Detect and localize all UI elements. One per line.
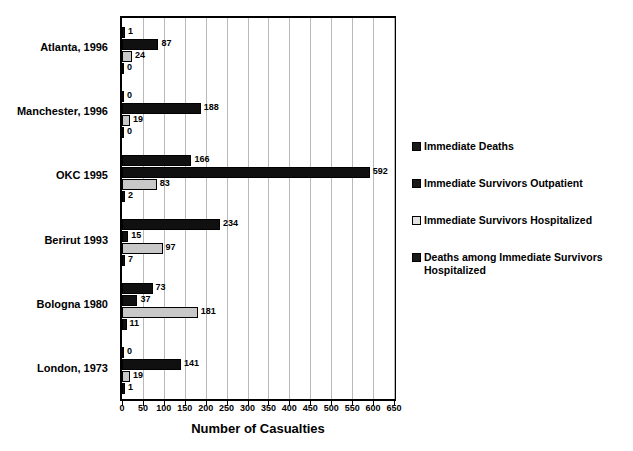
bar-row: 19 bbox=[122, 371, 394, 382]
bar-row: 234 bbox=[122, 219, 394, 230]
bar-row: 0 bbox=[122, 91, 394, 102]
legend-item[interactable]: Immediate Survivors Outpatient bbox=[412, 177, 628, 190]
bar-row: 141 bbox=[122, 359, 394, 370]
bar-row: 0 bbox=[122, 127, 394, 138]
bar bbox=[122, 371, 130, 382]
bar-value-label: 15 bbox=[128, 230, 141, 241]
bar-value-label: 141 bbox=[181, 358, 199, 369]
bar-row: 19 bbox=[122, 115, 394, 126]
category-label: Atlanta, 1996 bbox=[0, 41, 114, 53]
legend-label: Immediate Deaths bbox=[424, 140, 514, 153]
bar-row: 188 bbox=[122, 103, 394, 114]
category-label: London, 1973 bbox=[0, 362, 114, 374]
bar-group: 23415977 bbox=[122, 219, 394, 267]
bar-value-label: 37 bbox=[137, 294, 150, 305]
bar-value-label: 1 bbox=[125, 382, 133, 393]
bar bbox=[122, 51, 132, 62]
legend-swatch-icon bbox=[412, 253, 421, 262]
bar-row: 87 bbox=[122, 39, 394, 50]
x-tick-label: 250 bbox=[219, 403, 234, 413]
bar-row: 11 bbox=[122, 319, 394, 330]
x-tick-label: 350 bbox=[261, 403, 276, 413]
bar bbox=[122, 103, 201, 114]
bar bbox=[122, 179, 157, 190]
x-tick-label: 100 bbox=[156, 403, 171, 413]
x-tick-label: 450 bbox=[303, 403, 318, 413]
bar-row: 181 bbox=[122, 307, 394, 318]
x-tick-label: 500 bbox=[324, 403, 339, 413]
bar-row: 166 bbox=[122, 155, 394, 166]
bar-row: 97 bbox=[122, 243, 394, 254]
bar-value-label: 83 bbox=[157, 178, 170, 189]
bar-value-label: 592 bbox=[370, 166, 388, 177]
bar-row: 0 bbox=[122, 63, 394, 74]
bar-row: 73 bbox=[122, 283, 394, 294]
bar-row: 83 bbox=[122, 179, 394, 190]
legend-label: Deaths among Immediate Survivors Hospita… bbox=[424, 251, 628, 277]
chart-legend: Immediate DeathsImmediate Survivors Outp… bbox=[412, 140, 628, 301]
bar-row: 24 bbox=[122, 51, 394, 62]
bar-value-label: 0 bbox=[124, 90, 132, 101]
bar-value-label: 11 bbox=[127, 318, 140, 329]
bar-row: 592 bbox=[122, 167, 394, 178]
bar bbox=[122, 307, 198, 318]
category-axis-labels: Atlanta, 1996Manchester, 1996OKC 1995Ber… bbox=[0, 16, 114, 401]
chart-plot-area: 1872400188190166592832234159777337181110… bbox=[120, 16, 396, 401]
bar-row: 7 bbox=[122, 255, 394, 266]
bar-row: 2 bbox=[122, 191, 394, 202]
legend-item[interactable]: Immediate Deaths bbox=[412, 140, 628, 153]
bar-value-label: 166 bbox=[191, 154, 209, 165]
bar-row: 1 bbox=[122, 27, 394, 38]
bar-value-label: 97 bbox=[163, 242, 176, 253]
bar-row: 37 bbox=[122, 295, 394, 306]
bar-value-label: 188 bbox=[201, 102, 219, 113]
category-label: Berirut 1993 bbox=[0, 234, 114, 246]
bar bbox=[122, 167, 370, 178]
bar-value-label: 0 bbox=[124, 62, 132, 73]
bar-row: 1 bbox=[122, 383, 394, 394]
bar bbox=[122, 39, 158, 50]
legend-swatch-icon bbox=[412, 216, 421, 225]
bar bbox=[122, 219, 220, 230]
category-label: Manchester, 1996 bbox=[0, 105, 114, 117]
legend-item[interactable]: Immediate Survivors Hospitalized bbox=[412, 214, 628, 227]
bar-groups: 1872400188190166592832234159777337181110… bbox=[122, 18, 394, 399]
bar bbox=[122, 359, 181, 370]
bar-value-label: 0 bbox=[124, 346, 132, 357]
x-tick-label: 550 bbox=[345, 403, 360, 413]
legend-label: Immediate Survivors Hospitalized bbox=[424, 214, 592, 227]
legend-label: Immediate Survivors Outpatient bbox=[424, 177, 583, 190]
bar-value-label: 73 bbox=[153, 282, 166, 293]
x-axis-tick-labels: 050100150200250300350400450500550600650 bbox=[120, 403, 396, 417]
gridline bbox=[394, 18, 395, 399]
x-axis-title: Number of Casualties bbox=[120, 421, 396, 436]
bar bbox=[122, 283, 153, 294]
legend-swatch-icon bbox=[412, 142, 421, 151]
x-tick-label: 200 bbox=[198, 403, 213, 413]
x-tick-label: 300 bbox=[240, 403, 255, 413]
x-tick-label: 650 bbox=[386, 403, 401, 413]
bar-value-label: 24 bbox=[132, 50, 145, 61]
category-label: OKC 1995 bbox=[0, 169, 114, 181]
bar-group: 0188190 bbox=[122, 91, 394, 139]
x-tick-label: 50 bbox=[138, 403, 148, 413]
bar-value-label: 19 bbox=[130, 370, 143, 381]
category-label: Bologna 1980 bbox=[0, 298, 114, 310]
x-tick-label: 400 bbox=[282, 403, 297, 413]
bar-group: 166592832 bbox=[122, 155, 394, 203]
bar bbox=[122, 155, 191, 166]
bar bbox=[122, 243, 163, 254]
bar-value-label: 2 bbox=[125, 190, 133, 201]
legend-swatch-icon bbox=[412, 179, 421, 188]
bar-value-label: 181 bbox=[198, 306, 216, 317]
legend-item[interactable]: Deaths among Immediate Survivors Hospita… bbox=[412, 251, 628, 277]
bar-value-label: 234 bbox=[220, 218, 238, 229]
bar-row: 0 bbox=[122, 347, 394, 358]
bar bbox=[122, 295, 137, 306]
bar-row: 15 bbox=[122, 231, 394, 242]
x-tick-label: 150 bbox=[177, 403, 192, 413]
bar-group: 733718111 bbox=[122, 283, 394, 331]
bar-value-label: 7 bbox=[125, 254, 133, 265]
bar-group: 0141191 bbox=[122, 347, 394, 395]
bar-value-label: 87 bbox=[158, 38, 171, 49]
